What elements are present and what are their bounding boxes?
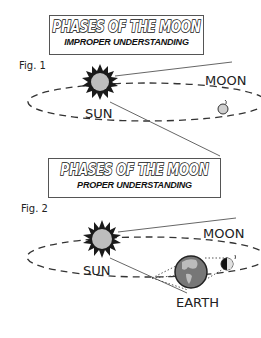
fig2-orbit [27, 237, 261, 277]
fig1-sun-icon [82, 64, 118, 100]
fig2-earth-label: EARTH [176, 295, 219, 310]
fig2-moon-label: MOON [203, 226, 244, 241]
fig2-subtitle: PROPER UNDERSTANDING [49, 180, 220, 191]
fig1-ray-bottom [110, 102, 220, 156]
fig2-sun-label: SUN [83, 263, 111, 278]
fig2-earth-icon [175, 256, 207, 288]
fig1-moon-label: MOON [205, 73, 246, 88]
fig1-sun-label: SUN [85, 106, 113, 121]
fig2-moon-icon [221, 255, 236, 270]
fig2-title: PHASES OF THE MOON [49, 160, 220, 180]
fig2-label: Fig. 2 [21, 203, 48, 214]
fig1-moon-icon [218, 100, 228, 114]
fig2-title-box: PHASES OF THE MOON PROPER UNDERSTANDING [48, 158, 221, 198]
